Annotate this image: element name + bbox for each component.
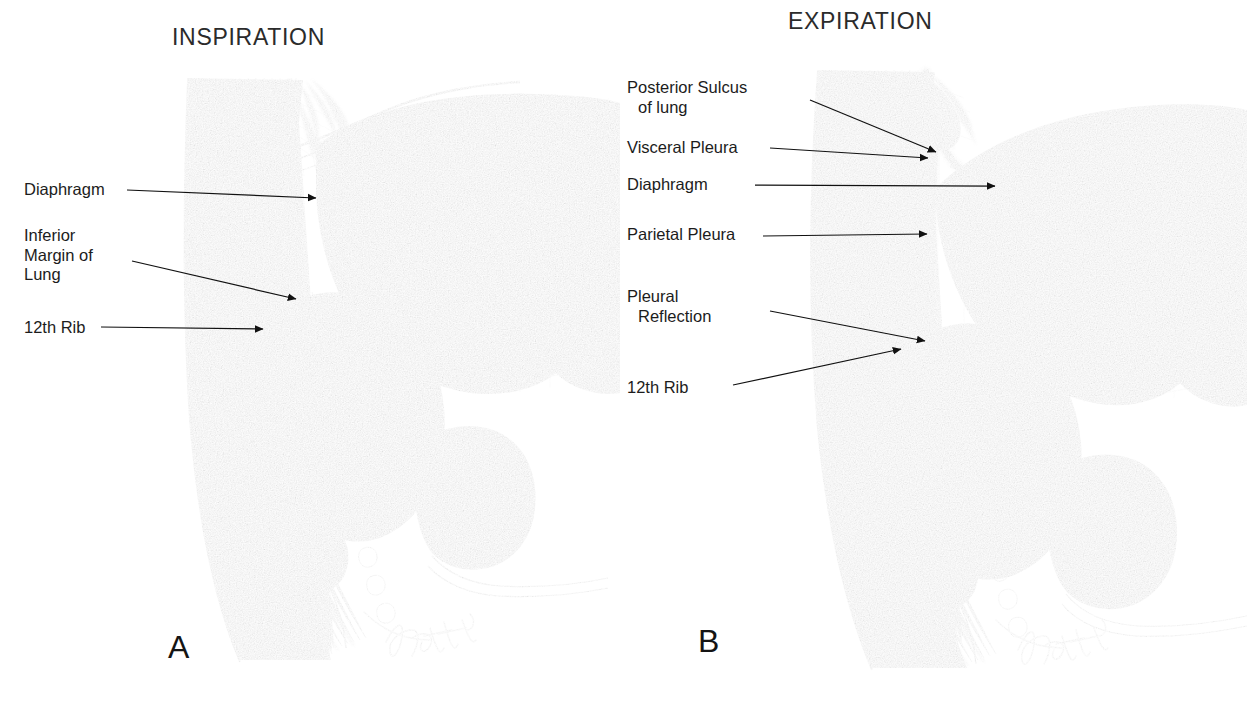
colon — [1048, 455, 1247, 636]
panel-expiration: EXPIRATION Posterior Sulcus of lung Visc… — [620, 0, 1247, 709]
label-parietal-pleura: Parietal Pleura — [627, 225, 735, 245]
panel-a-artwork — [0, 0, 620, 709]
artist-signature — [996, 620, 1108, 664]
label-visceral-pleura: Visceral Pleura — [627, 138, 738, 158]
label-diaphragm-b: Diaphragm — [627, 175, 708, 195]
label-12th-rib-b: 12th Rib — [627, 378, 688, 398]
panel-a-title: INSPIRATION — [172, 24, 325, 51]
label-inferior-margin-of-lung: Inferior Margin of Lung — [24, 226, 93, 285]
label-posterior-sulcus-of-lung: Posterior Sulcus of lung — [627, 78, 747, 117]
panel-b-letter: B — [698, 623, 719, 660]
colon — [415, 427, 608, 597]
panel-a-letter: A — [168, 629, 189, 666]
anatomical-figure: INSPIRATION Diaphragm Inferior Margin of… — [0, 0, 1247, 709]
label-12th-rib-a: 12th Rib — [24, 318, 85, 338]
panel-inspiration: INSPIRATION Diaphragm Inferior Margin of… — [0, 0, 620, 709]
artist-signature — [364, 612, 476, 656]
label-pleural-reflection: Pleural Reflection — [627, 287, 711, 326]
panel-b-title: EXPIRATION — [788, 8, 933, 35]
label-diaphragm-a: Diaphragm — [24, 180, 105, 200]
